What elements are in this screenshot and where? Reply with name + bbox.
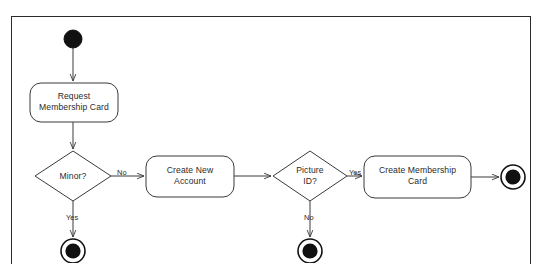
activity-diagram-canvas: create new account --> final --> create … <box>12 17 530 263</box>
edge-label-picture-id-yes: Yes <box>349 169 361 177</box>
cut-off-caption-above <box>0 0 541 5</box>
decision-minor[interactable] <box>35 151 111 201</box>
screenshot-root: create new account --> final --> create … <box>0 0 541 264</box>
action-create-membership-card[interactable] <box>364 156 471 198</box>
action-create-new-account[interactable] <box>146 156 234 197</box>
initial-node[interactable] <box>64 30 82 48</box>
final-node-picture-id-no[interactable] <box>298 239 322 263</box>
action-request-membership-card[interactable] <box>30 83 118 122</box>
decision-picture-id[interactable] <box>273 151 347 201</box>
diagram-frame: create new account --> final --> create … <box>11 16 531 264</box>
edge-label-minor-yes: Yes <box>66 214 78 222</box>
final-node-minor-yes[interactable] <box>61 239 85 263</box>
edge-label-picture-id-no: No <box>304 214 314 222</box>
final-node-success[interactable] <box>501 165 525 189</box>
edge-label-minor-no: No <box>117 169 127 177</box>
